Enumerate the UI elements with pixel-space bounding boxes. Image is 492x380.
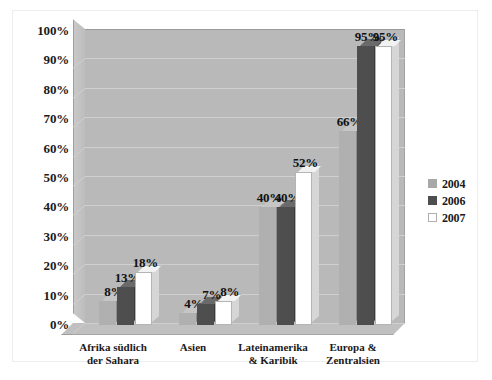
bar-2006-2[interactable] [277,207,294,325]
y-axis-tick: 30% [17,230,69,243]
x-axis-category-line: Europa & [313,341,393,354]
legend-swatch [428,196,437,205]
x-axis-category-line: der Sahara [73,354,153,367]
bar-front-face [179,313,196,325]
bar-front-face [375,46,392,325]
x-axis-category-label: Europa &Zentralsien [313,341,393,367]
legend-swatch [428,213,437,222]
y-axis-tick: 90% [17,53,69,66]
bar-2006-1[interactable] [197,304,214,325]
bar-2004-1[interactable] [179,313,196,325]
bar-front-face [277,207,294,325]
legend-label: 2006 [442,195,465,207]
x-axis-category-line: & Karibik [233,354,313,367]
chart-frame: 100%90%80%70%60%50%40%30%20%10%0% 8%4%40… [12,10,478,362]
x-axis-category-line: Asien [153,341,233,354]
bar-front-face [117,287,134,325]
legend-item-2006[interactable]: 2006 [428,192,482,209]
bars-layer: 8%4%40%66%13%7%40%95%18%8%52%95% [73,29,405,337]
legend-item-2004[interactable]: 2004 [428,175,482,192]
bar-value-label: 52% [293,156,318,169]
x-axis-category-label: Lateinamerika& Karibik [233,341,313,367]
bar-side-face [312,163,319,322]
bar-2007-2[interactable] [295,172,312,325]
legend-item-2007[interactable]: 2007 [428,209,482,226]
bar-front-face [135,272,152,325]
bar-2007-3[interactable] [375,46,392,325]
bar-2004-0[interactable] [99,301,116,325]
y-axis-tick: 100% [17,24,69,37]
bar-front-face [295,172,312,325]
bar-front-face [197,304,214,325]
legend-swatch [428,179,437,188]
y-axis-tick: 50% [17,171,69,184]
bar-front-face [339,131,356,325]
x-axis-category-line: Zentralsien [313,354,393,367]
y-axis-tick: 80% [17,83,69,96]
bar-front-face [99,301,116,325]
bar-2006-3[interactable] [357,46,374,325]
x-axis-category-label: Asien [153,341,233,354]
bar-2004-3[interactable] [339,131,356,325]
bar-front-face [259,207,276,325]
x-axis-category-line: Lateinamerika [233,341,313,354]
y-axis-tick: 0% [17,318,69,331]
bar-front-face [357,46,374,325]
y-axis-tick: 40% [17,200,69,213]
bar-2006-0[interactable] [117,287,134,325]
bar-2007-0[interactable] [135,272,152,325]
legend-label: 2007 [442,212,465,224]
x-axis-categories: Afrika südlichder SaharaAsienLateinameri… [73,341,413,380]
y-axis: 100%90%80%70%60%50%40%30%20%10%0% [13,29,69,337]
x-axis-category-line: Afrika südlich [73,341,153,354]
bar-value-label: 8% [220,285,239,298]
bar-side-face [392,37,399,322]
bar-value-label: 18% [133,256,158,269]
legend: 200420062007 [425,171,485,230]
bar-2007-1[interactable] [215,301,232,325]
bar-value-label: 95% [373,30,398,43]
bar-2004-2[interactable] [259,207,276,325]
x-axis-category-label: Afrika südlichder Sahara [73,341,153,367]
y-axis-tick: 60% [17,142,69,155]
y-axis-tick: 20% [17,259,69,272]
y-axis-tick: 70% [17,112,69,125]
y-axis-tick: 10% [17,289,69,302]
legend-label: 2004 [442,178,465,190]
bar-front-face [215,301,232,325]
